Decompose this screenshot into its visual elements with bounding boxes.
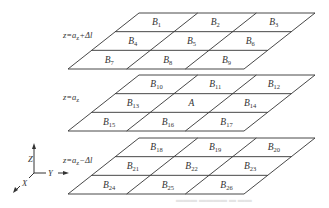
z-axis-label: Z — [28, 154, 33, 164]
cell-B2: B2 — [211, 17, 220, 28]
cell-B20: B20 — [268, 142, 280, 153]
cell-B17: B17 — [220, 117, 233, 128]
cell-B14: B14 — [244, 98, 257, 109]
cell-B19: B19 — [209, 142, 221, 153]
cell-B12: B12 — [268, 79, 280, 90]
cell-B4: B4 — [128, 36, 138, 47]
cell-B11: B11 — [209, 79, 221, 90]
cell-B21: B21 — [127, 161, 139, 172]
plane-1: B1B2B3B4B5B6B7B8B9z=az+Δl — [62, 13, 315, 69]
cell-A: A — [188, 98, 195, 108]
cell-B6: B6 — [246, 36, 256, 47]
cell-B16: B16 — [162, 117, 175, 128]
cell-B7: B7 — [105, 55, 115, 66]
cell-B10: B10 — [150, 79, 162, 90]
cell-B3: B3 — [269, 17, 278, 28]
cell-B18: B18 — [150, 142, 162, 153]
z-arrow-icon — [32, 143, 36, 149]
x-axis-label: X — [21, 178, 28, 188]
x-arrow-icon — [13, 187, 18, 193]
cell-B8: B8 — [163, 55, 172, 66]
cell-B24: B24 — [103, 180, 116, 191]
y-axis-label: Y — [48, 168, 54, 178]
cell-B9: B9 — [222, 55, 231, 66]
plane-label-2: z=az — [62, 92, 79, 103]
plane-3: B18B19B20B21B22B23B24B25B26z=az−Δl — [62, 138, 315, 194]
cell-B15: B15 — [103, 117, 115, 128]
cell-B26: B26 — [220, 180, 233, 191]
plane-label-1: z=az+Δl — [62, 30, 93, 41]
cell-B1: B1 — [152, 17, 161, 28]
cell-B22: B22 — [185, 161, 197, 172]
axis-triad: Z Y X — [13, 143, 69, 193]
figure-caption: ▬▬▬ ▬▬▬▬ ▬ ▬▬ — [176, 196, 252, 203]
cell-B5: B5 — [187, 36, 196, 47]
cell-B23: B23 — [244, 161, 256, 172]
y-arrow-icon — [63, 171, 69, 175]
cell-B13: B13 — [127, 98, 139, 109]
planes-group: B1B2B3B4B5B6B7B8B9z=az+ΔlB10B11B12B13AB1… — [62, 13, 315, 194]
x-axis-line — [29, 173, 34, 178]
plane-2: B10B11B12B13AB14B15B16B17z=az — [62, 75, 315, 131]
neighborhood-diagram: B1B2B3B4B5B6B7B8B9z=az+ΔlB10B11B12B13AB1… — [0, 0, 329, 208]
cell-B25: B25 — [162, 180, 174, 191]
plane-label-3: z=az−Δl — [62, 155, 93, 166]
